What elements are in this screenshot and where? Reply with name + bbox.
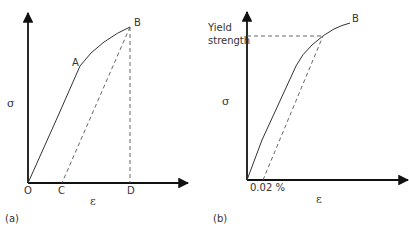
panel-a-point-a: A bbox=[72, 58, 79, 68]
panel-a-point-o: O bbox=[24, 186, 32, 196]
panel-b-graphic bbox=[247, 12, 408, 180]
panel-a-x-axis-label: ε bbox=[90, 196, 96, 207]
panel-a-caption: (a) bbox=[5, 214, 19, 224]
panel-b-offset-label: 0.02 % bbox=[250, 183, 285, 193]
diagram-canvas bbox=[0, 0, 409, 234]
panel-a-y-axis-label: σ bbox=[7, 98, 15, 109]
panel-b-x-axis-label: ε bbox=[316, 194, 322, 205]
panel-a-point-c: C bbox=[58, 186, 65, 196]
panel-b-y-axis-label: σ bbox=[222, 96, 230, 107]
panel-b-caption: (b) bbox=[213, 214, 227, 224]
panel-a-stress-strain-curve bbox=[28, 27, 130, 183]
panel-b-offset-line bbox=[263, 36, 323, 180]
panel-a-graphic bbox=[28, 13, 188, 183]
panel-b-stress-strain-curve bbox=[247, 23, 350, 180]
panel-b-yield-label-line1: Yield bbox=[208, 23, 232, 33]
panel-a-unloading-line bbox=[62, 27, 130, 183]
panel-a-point-b: B bbox=[134, 18, 141, 28]
panel-b-yield-label-line2: strength bbox=[208, 36, 250, 46]
panel-b-point-b: B bbox=[352, 14, 359, 24]
panel-a-point-d: D bbox=[127, 186, 135, 196]
